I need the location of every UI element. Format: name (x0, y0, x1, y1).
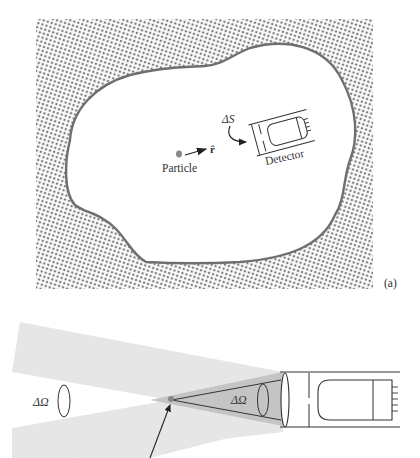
surface-element-label: ΔS (221, 113, 235, 125)
solid-angle-ellipse-left (58, 385, 70, 417)
figure-a: Particle r̂ ΔS Detector (a) (36, 19, 397, 290)
detector-lens (281, 373, 289, 427)
solid-angle-label-right: ΔΩ (230, 393, 247, 407)
panel-label-a: (a) (384, 277, 397, 290)
figure-b: ΔΩ ΔΩ (12, 322, 400, 458)
particle-label: Particle (162, 162, 197, 174)
particle-dot (176, 151, 182, 158)
detector-b (280, 372, 400, 427)
figure-canvas: Particle r̂ ΔS Detector (a) (0, 0, 420, 458)
unit-vector-label: r̂ (210, 143, 215, 155)
detector-tube (318, 380, 392, 420)
particle-dot-b (168, 396, 174, 402)
solid-angle-label-left: ΔΩ (32, 395, 49, 409)
